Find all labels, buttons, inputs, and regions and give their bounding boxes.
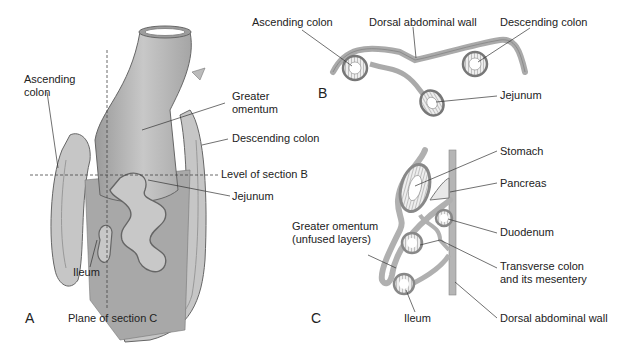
label-b-descending-colon: Descending colon	[500, 16, 587, 29]
label-a-jejunum: Jejunum	[232, 190, 274, 203]
label-b-jejunum: Jejunum	[500, 89, 542, 102]
label-a-ascending-colon-2: colon	[24, 86, 50, 99]
label-c-dorsal-wall: Dorsal abdominal wall	[500, 312, 608, 325]
label-c-stomach: Stomach	[500, 145, 543, 158]
panel-letter-a: A	[25, 310, 34, 326]
panel-c-leaders	[368, 151, 497, 318]
label-a-greater-omentum-1: Greater	[232, 90, 269, 103]
label-c-ileum: Ileum	[404, 312, 431, 325]
label-b-dorsal-wall: Dorsal abdominal wall	[369, 16, 477, 29]
panel-c-illustration	[368, 150, 497, 318]
label-a-descending-colon: Descending colon	[232, 132, 319, 145]
label-c-greater-omentum-2: (unfused layers)	[292, 233, 371, 246]
label-c-pancreas: Pancreas	[500, 177, 546, 190]
label-a-ascending-colon-1: Ascending	[24, 73, 75, 86]
label-a-plane-c: Plane of section C	[68, 312, 157, 325]
panel-b-illustration	[302, 27, 530, 120]
label-c-transverse-2: and its mesentery	[500, 273, 587, 286]
c-pancreas	[430, 178, 449, 200]
panel-letter-b: B	[318, 85, 327, 101]
label-a-greater-omentum-2: omentum	[232, 103, 278, 116]
label-a-ileum: Ileum	[73, 266, 100, 279]
label-c-transverse-1: Transverse colon	[500, 260, 584, 273]
label-b-ascending-colon: Ascending colon	[252, 16, 333, 29]
label-a-level-b: Level of section B	[221, 168, 308, 181]
panel-letter-c: C	[311, 310, 321, 326]
ascending-colon-shape	[51, 134, 90, 286]
label-c-greater-omentum-1: Greater omentum	[292, 220, 378, 233]
label-c-duodenum: Duodenum	[500, 226, 554, 239]
